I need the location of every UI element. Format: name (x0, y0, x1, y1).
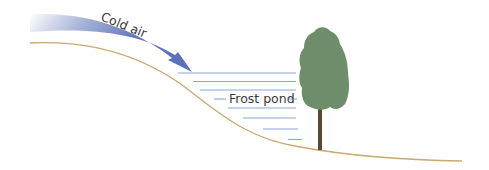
cold-air-label: Cold air (99, 9, 150, 41)
frost-pond-lines (178, 73, 302, 140)
tree (299, 27, 349, 150)
frost-pond-diagram: Cold air Frost pond (0, 0, 489, 170)
tree-canopy (299, 27, 349, 109)
frost-pond-label: Frost pond (229, 91, 295, 106)
